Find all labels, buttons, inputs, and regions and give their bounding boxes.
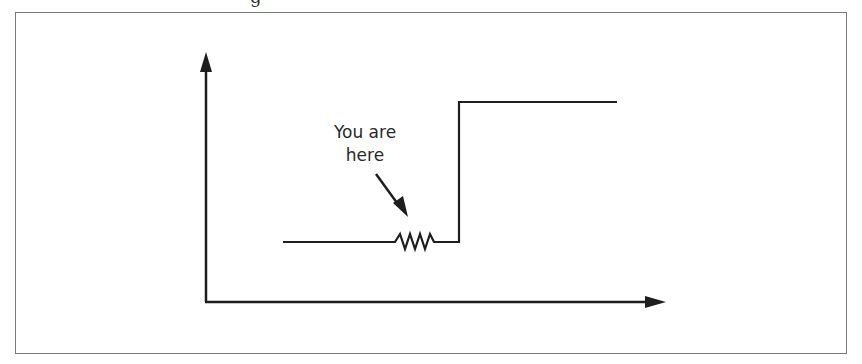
- annotation-line-2: here: [346, 145, 384, 165]
- y-axis: [200, 52, 212, 302]
- y-axis-arrowhead-icon: [200, 52, 212, 72]
- you-are-here-pointer: [376, 174, 408, 217]
- annotation-line-1: You are: [333, 122, 396, 142]
- step-diagram: You are here: [0, 0, 862, 364]
- x-axis: [205, 296, 666, 308]
- x-axis-arrowhead-icon: [645, 296, 666, 308]
